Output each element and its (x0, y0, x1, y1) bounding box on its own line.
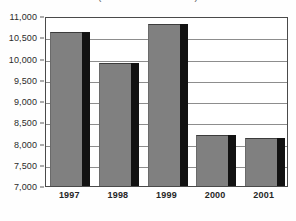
y-axis-tick-label: 11,000 (10, 12, 37, 22)
x-axis-tick-label: 2001 (253, 190, 274, 200)
y-axis-tick-mark (40, 187, 44, 188)
x-axis-tick-label: 1999 (156, 190, 177, 200)
y-axis-tick-label: 8,000 (14, 140, 37, 150)
y-axis-tick-mark (40, 165, 44, 166)
chart-title-clip: (dollars in thousands) (0, 0, 296, 5)
bar (148, 24, 180, 186)
y-axis-tick-label: 7,000 (14, 182, 37, 192)
y-axis-tick-label: 8,500 (14, 118, 37, 128)
y-axis-tick-mark (40, 17, 44, 18)
bar-shadow (131, 63, 139, 186)
y-axis-tick-mark (40, 38, 44, 39)
bar-shadow (228, 135, 236, 186)
y-axis-tick-label: 7,500 (14, 161, 37, 171)
y-axis-tick-label: 10,500 (9, 33, 37, 43)
chart-title: (dollars in thousands) (98, 0, 198, 2)
x-axis-tick-label: 2000 (205, 190, 226, 200)
bar (99, 63, 131, 186)
plot-area (45, 17, 288, 187)
y-axis-tick-label: 9,000 (14, 97, 37, 107)
x-axis-tick-label: 1998 (107, 190, 128, 200)
bar-chart-figure: (dollars in thousands) 7,0007,5008,0008,… (0, 0, 296, 221)
y-axis-tick-mark (40, 123, 44, 124)
y-axis-tick-mark (40, 59, 44, 60)
x-axis-labels: 19971998199920002001 (45, 190, 288, 210)
bar (50, 32, 82, 186)
y-axis-tick-mark (40, 102, 44, 103)
y-axis-tick-mark (40, 80, 44, 81)
x-axis-tick-label: 1997 (59, 190, 80, 200)
bar-shadow (82, 32, 90, 186)
y-axis-tick-label: 9,500 (14, 76, 37, 86)
bar-shadow (180, 24, 188, 186)
y-axis-labels: 7,0007,5008,0008,5009,0009,50010,00010,5… (0, 0, 44, 221)
bar-shadow (277, 138, 285, 186)
y-axis-tick-mark (40, 144, 44, 145)
bar (196, 135, 228, 186)
bar (245, 138, 277, 186)
y-axis-tick-label: 10,000 (9, 55, 37, 65)
